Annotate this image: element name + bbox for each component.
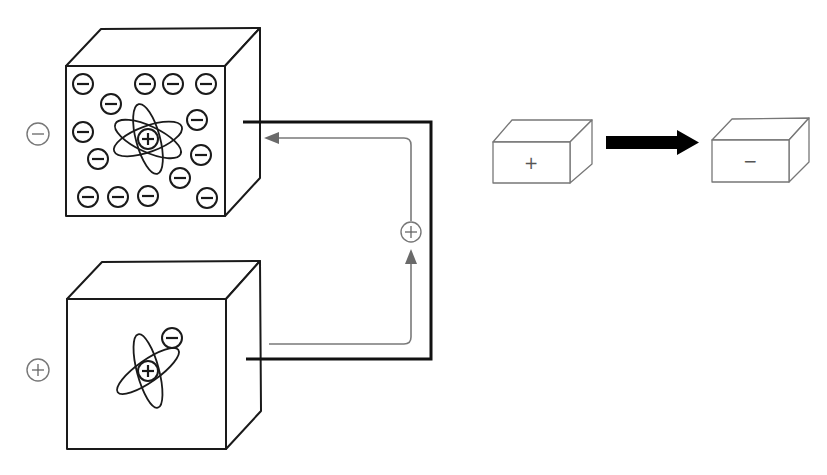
electron-minus-icon <box>101 94 121 114</box>
electron-minus-icon <box>138 186 158 206</box>
negative-charge-icon <box>27 123 49 145</box>
electron-minus-icon <box>162 328 182 348</box>
electron-minus-icon <box>191 145 211 165</box>
electron-minus-icon <box>73 74 93 94</box>
positive-cube <box>67 261 261 449</box>
diagram-canvas: + − <box>0 0 827 475</box>
electron-minus-icon <box>170 168 190 188</box>
nucleus-plus-icon <box>138 129 158 149</box>
nucleus-plus-icon <box>138 361 158 381</box>
arrow-up-head-icon <box>405 249 417 264</box>
electron-minus-icon <box>197 188 217 208</box>
arrow-left-head-icon <box>264 132 279 144</box>
negative-box-label: − <box>743 151 757 171</box>
electron-minus-icon <box>196 74 216 94</box>
positive-box-label: + <box>524 153 538 173</box>
electron-minus-icon <box>135 74 155 94</box>
transfer-arrow-icon <box>606 130 699 155</box>
positive-charge-icon <box>27 359 49 381</box>
electron-minus-icon <box>73 122 93 142</box>
charge-flow-arrow <box>264 132 421 344</box>
positive-box: + <box>493 120 592 183</box>
electron-minus-icon <box>108 187 128 207</box>
flow-charge-plus-icon <box>401 222 421 242</box>
electron-minus-icon <box>88 149 108 169</box>
electron-minus-icon <box>163 74 183 94</box>
electron-minus-icon <box>187 110 207 130</box>
negative-cube <box>66 28 260 216</box>
conducting-wire <box>243 122 431 359</box>
electron-minus-icon <box>78 187 98 207</box>
negative-box: − <box>712 118 809 182</box>
